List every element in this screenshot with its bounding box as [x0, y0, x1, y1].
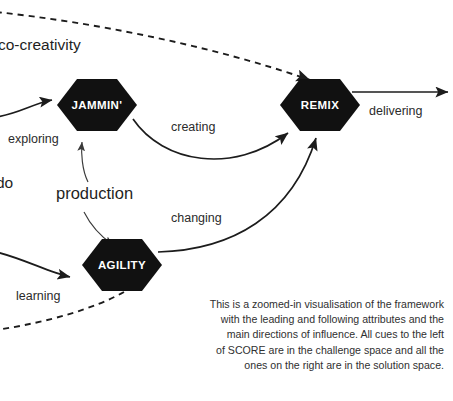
edge-exploring-into-jammin — [0, 100, 52, 117]
node-jammin-label: JAMMIN' — [72, 99, 123, 111]
edge-production-to-jammin — [82, 142, 88, 182]
edge-label-exploring: exploring — [8, 132, 59, 146]
edge-label-changing: changing — [171, 211, 222, 225]
caption-block: This is a zoomed-in visualisation of the… — [172, 297, 444, 373]
diagram-canvas: JAMMIN' REMIX AGILITY exploring learning… — [0, 0, 453, 401]
edge-learning-into-agility — [0, 252, 70, 277]
caption-line: of SCORE are in the challenge space and … — [172, 343, 444, 358]
edge-label-learning: learning — [16, 289, 61, 303]
node-agility-label: AGILITY — [98, 259, 146, 271]
label-production: production — [56, 184, 133, 202]
label-co-creativity: co-creativity — [0, 36, 81, 53]
edge-label-creating: creating — [171, 120, 216, 134]
label-do: do — [0, 174, 13, 191]
node-remix[interactable]: REMIX — [280, 79, 360, 131]
caption-line: with the leading and following attribute… — [172, 312, 444, 327]
caption-line: This is a zoomed-in visualisation of the… — [172, 297, 444, 312]
edge-changing-agility-to-remix — [158, 138, 316, 252]
caption-line: ones on the right are in the solution sp… — [172, 358, 444, 373]
node-agility[interactable]: AGILITY — [82, 239, 162, 291]
caption-line: main directions of influence. All cues t… — [172, 327, 444, 342]
node-remix-label: REMIX — [301, 99, 339, 111]
node-jammin[interactable]: JAMMIN' — [57, 79, 137, 131]
edge-label-delivering: delivering — [369, 104, 423, 118]
